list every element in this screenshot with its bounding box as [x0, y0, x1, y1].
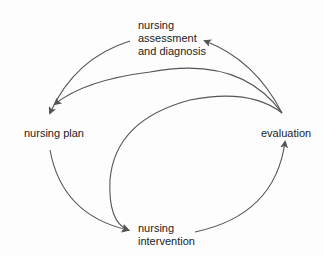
- node-evaluation-label: evaluation: [261, 127, 311, 140]
- node-plan: nursing plan: [24, 127, 84, 140]
- node-intervention-line-1: nursing: [138, 222, 195, 235]
- node-assessment-line-1: nursing: [138, 19, 206, 32]
- node-intervention: nursing intervention: [138, 222, 195, 248]
- node-assessment-line-2: assessment: [138, 32, 206, 45]
- arrow-intervention-to-evaluation: [195, 142, 285, 232]
- node-plan-label: nursing plan: [24, 127, 84, 140]
- node-assessment: nursing assessment and diagnosis: [138, 19, 206, 58]
- node-assessment-line-3: and diagnosis: [138, 45, 206, 58]
- node-evaluation: evaluation: [261, 127, 311, 140]
- arrow-evaluation-to-assessment: [205, 41, 282, 113]
- arrow-evaluation-to-intervention: [110, 96, 282, 230]
- arrow-evaluation-to-plan: [55, 68, 282, 113]
- node-intervention-line-2: intervention: [138, 235, 195, 248]
- arrow-plan-to-intervention: [50, 150, 128, 230]
